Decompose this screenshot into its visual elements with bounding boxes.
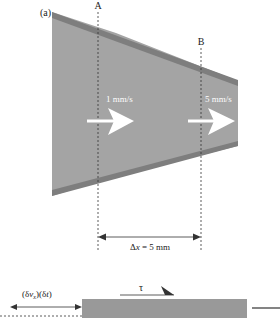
shear-symbol: τ	[139, 282, 143, 293]
velocity-a-label: 1 mm/s	[106, 94, 133, 104]
panel-label: (a)	[40, 7, 51, 19]
displacement-arrowhead-right-icon	[75, 304, 82, 310]
converging-channel-diagram: (a) A B 1 mm/s 5 mm/s Δx = 5 mm (δvx)(δt…	[0, 0, 280, 318]
velocity-b-label: 5 mm/s	[205, 94, 232, 104]
displacement-label: (δvx)(δt)	[22, 289, 52, 300]
disp-close: )	[49, 289, 52, 299]
displacement-arrowhead-left-icon	[10, 304, 17, 310]
section-b-label: B	[198, 36, 205, 47]
shear-arrowhead-icon	[161, 286, 174, 295]
dx-label: Δx = 5 mm	[130, 242, 170, 252]
dx-arrowhead-left-icon	[98, 234, 106, 241]
disp-mid: )(δ	[36, 289, 46, 299]
section-a-label: A	[94, 0, 102, 11]
dx-suffix: = 5 mm	[140, 242, 170, 252]
shear-block	[82, 299, 247, 318]
dx-arrowhead-right-icon	[193, 234, 201, 241]
disp-open1: (δ	[22, 289, 29, 299]
